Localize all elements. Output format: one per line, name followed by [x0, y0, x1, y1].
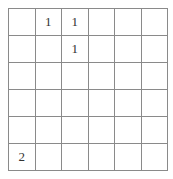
grid-cell-r3-c1[interactable] — [36, 90, 63, 117]
grid-cell-r1-c4[interactable] — [115, 36, 142, 63]
grid-cell-r2-c1[interactable] — [36, 63, 63, 90]
grid-cell-r5-c0[interactable]: 2 — [9, 144, 36, 171]
grid-cell-r2-c2[interactable] — [62, 63, 89, 90]
puzzle-grid: 1112 — [8, 8, 168, 171]
grid-cell-r0-c3[interactable] — [89, 9, 116, 36]
grid-cell-r1-c0[interactable] — [9, 36, 36, 63]
grid-cell-r4-c0[interactable] — [9, 117, 36, 144]
grid-cell-r4-c5[interactable] — [142, 117, 169, 144]
grid-cell-r4-c4[interactable] — [115, 117, 142, 144]
grid-cell-r3-c3[interactable] — [89, 90, 116, 117]
grid-cell-r5-c1[interactable] — [36, 144, 63, 171]
grid-cell-r1-c3[interactable] — [89, 36, 116, 63]
grid-cell-r2-c5[interactable] — [142, 63, 169, 90]
grid-cell-r0-c5[interactable] — [142, 9, 169, 36]
grid-cell-r0-c1[interactable]: 1 — [36, 9, 63, 36]
grid-cell-r0-c0[interactable] — [9, 9, 36, 36]
grid-cell-r5-c5[interactable] — [142, 144, 169, 171]
grid-cell-r2-c4[interactable] — [115, 63, 142, 90]
grid-cell-r0-c2[interactable]: 1 — [62, 9, 89, 36]
grid-cell-r5-c3[interactable] — [89, 144, 116, 171]
grid-cell-r1-c5[interactable] — [142, 36, 169, 63]
grid-cell-r5-c4[interactable] — [115, 144, 142, 171]
grid-cell-r1-c1[interactable] — [36, 36, 63, 63]
grid-cell-r4-c2[interactable] — [62, 117, 89, 144]
grid-cell-r1-c2[interactable]: 1 — [62, 36, 89, 63]
grid-cell-r4-c1[interactable] — [36, 117, 63, 144]
grid-cell-r0-c4[interactable] — [115, 9, 142, 36]
grid-cell-r2-c0[interactable] — [9, 63, 36, 90]
grid-cell-r3-c2[interactable] — [62, 90, 89, 117]
grid-cell-r2-c3[interactable] — [89, 63, 116, 90]
grid-cell-r3-c0[interactable] — [9, 90, 36, 117]
grid-cell-r3-c5[interactable] — [142, 90, 169, 117]
grid-cell-r3-c4[interactable] — [115, 90, 142, 117]
grid-cell-r5-c2[interactable] — [62, 144, 89, 171]
grid-cell-r4-c3[interactable] — [89, 117, 116, 144]
